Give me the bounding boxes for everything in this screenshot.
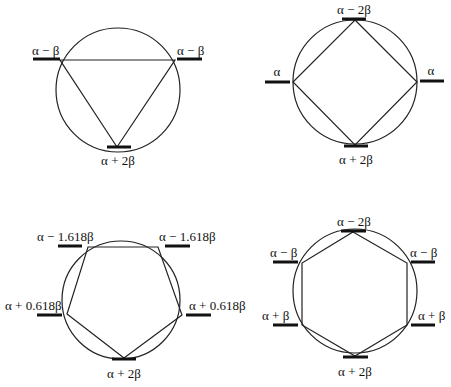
energy-level-label: α − 2β	[337, 214, 371, 229]
triangle-polygon	[60, 60, 175, 147]
frost-diagram-triangle: α − βα − βα + 2β	[32, 28, 205, 168]
energy-level: α − β	[32, 43, 60, 59]
hexagon-polygon	[302, 232, 407, 356]
energy-level: α − 2β	[337, 2, 371, 19]
energy-level: α − 1.618β	[159, 229, 216, 246]
energy-level: α − β	[410, 245, 438, 262]
energy-level: α + 2β	[107, 359, 141, 381]
energy-level-label: α + 2β	[339, 152, 373, 167]
energy-level: α	[265, 64, 290, 82]
energy-level-label: α − β	[177, 43, 205, 58]
frost-diagram-hexagon: α − 2βα − βα − βα + βα + βα + 2β	[262, 214, 446, 379]
frost-circle	[56, 28, 180, 152]
energy-level: α + β	[262, 308, 298, 325]
energy-level-label: α + β	[262, 308, 290, 323]
energy-level-label: α − 1.618β	[37, 229, 94, 244]
energy-level: α − 1.618β	[37, 229, 94, 246]
frost-circle	[293, 229, 417, 353]
energy-level-label: α − β	[410, 245, 438, 260]
energy-level: α + β	[411, 308, 446, 325]
energy-level-label: α − 2β	[337, 2, 371, 17]
energy-level-label: α − 1.618β	[159, 229, 216, 244]
energy-level: α + 0.618β	[5, 298, 62, 315]
energy-level-label: α + 2β	[107, 366, 141, 381]
energy-level: α	[420, 63, 444, 81]
frost-diagram-pentagon: α − 1.618βα − 1.618βα + 0.618βα + 0.618β…	[5, 229, 246, 381]
energy-level-label: α + 2β	[338, 364, 372, 379]
energy-level-label: α + 2β	[101, 153, 135, 168]
energy-level-label: α − β	[32, 43, 60, 58]
energy-level-label: α + 0.618β	[5, 298, 62, 313]
energy-level: α − 2β	[337, 214, 371, 231]
energy-level-label: α − β	[270, 245, 298, 260]
energy-level-label: α + β	[418, 308, 446, 323]
energy-level: α − β	[177, 43, 205, 59]
frost-circle	[293, 20, 417, 144]
pentagon-polygon	[67, 247, 182, 358]
frost-circle-diagrams: α − βα − βα + 2βα − 2βααα + 2βα − 1.618β…	[0, 0, 451, 387]
energy-level: α + 2β	[101, 147, 135, 168]
energy-level-label: α	[274, 64, 281, 79]
energy-level: α + 2β	[338, 357, 372, 379]
energy-level-label: α	[428, 63, 435, 78]
frost-diagram-square: α − 2βααα + 2β	[265, 2, 444, 167]
energy-level-label: α + 0.618β	[189, 298, 246, 313]
energy-level: α + 2β	[339, 146, 373, 167]
energy-level: α − β	[270, 245, 298, 262]
energy-level: α + 0.618β	[186, 298, 246, 315]
